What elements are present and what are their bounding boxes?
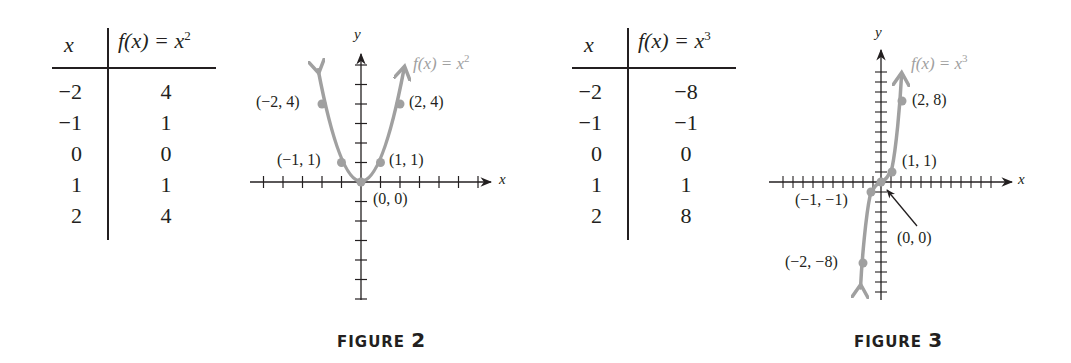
function-label: f(x) = x3 <box>911 52 968 74</box>
function-label-exp: 2 <box>464 52 470 64</box>
figure-caption: FIGURE3 <box>854 328 943 352</box>
function-label-text: f(x) = x <box>911 54 962 73</box>
point-label: (−2, −8) <box>785 253 838 271</box>
figure-caption: FIGURE2 <box>337 328 426 352</box>
graph-square <box>250 54 491 300</box>
y-axis-label: y <box>354 26 361 43</box>
figure-caption-number: 3 <box>928 328 943 352</box>
origin-pointer-arrow <box>887 190 917 226</box>
figure-caption-number: 2 <box>411 328 426 352</box>
point-label: (2, 8) <box>912 91 947 109</box>
point-label: (−1, 1) <box>277 151 321 169</box>
y-axis-label: y <box>875 24 882 41</box>
point-label: (2, 4) <box>409 93 444 111</box>
figure-caption-word: FIGURE <box>337 333 405 351</box>
function-label-exp: 3 <box>962 52 968 64</box>
x-axis-label: x <box>499 171 506 188</box>
point-label: (−2, 4) <box>256 93 300 111</box>
figure-caption-word: FIGURE <box>854 333 922 351</box>
function-label: f(x) = x2 <box>413 52 470 74</box>
point-label: (0, 0) <box>373 190 408 208</box>
point-label: (1, 1) <box>389 151 424 169</box>
function-label-text: f(x) = x <box>413 54 464 73</box>
x-axis-label: x <box>1018 171 1025 188</box>
point-label: (−1, −1) <box>795 191 848 209</box>
point-label: (1, 1) <box>902 152 937 170</box>
point-label: (0, 0) <box>897 229 932 247</box>
